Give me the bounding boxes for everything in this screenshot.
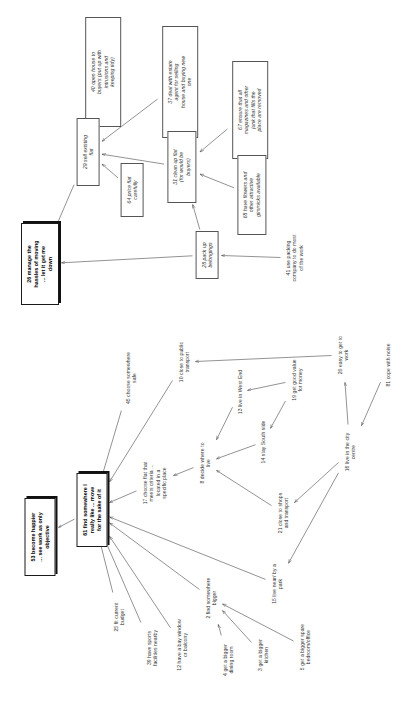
node-n19[interactable]: 19 get good value for money	[271, 374, 323, 387]
node-n17[interactable]: 17 choose flat that meets criteria ... l…	[126, 470, 184, 496]
node-label: 5 get a bigger spare bedroom/office	[299, 618, 312, 676]
node-n26[interactable]: 26 manage the hassles of moving ... let …	[0, 245, 81, 283]
node-n28[interactable]: 28 pack up belongings	[183, 244, 231, 267]
node-label: 40 open house to buyers (put up with int…	[90, 23, 116, 121]
node-n5[interactable]: 5 get a bigger spare bedroom/office	[276, 641, 334, 654]
node-label: 61 find somewhere I really like ... move…	[82, 479, 103, 541]
node-label: 21 close to shops and transport	[277, 487, 290, 539]
edge-n2-to-n61	[110, 523, 200, 590]
node-label: 13 live in West End	[237, 363, 243, 421]
node-n12[interactable]: 12 have a bay window or balcony	[153, 639, 211, 652]
node-label: 28 pack up belongings	[201, 237, 214, 273]
node-rotation-wrapper: 4 get a bigger dining room	[222, 637, 235, 683]
edge-n67-to-n31	[200, 129, 228, 152]
node-rotation-wrapper: 16 live in the city centre	[344, 426, 357, 478]
node-label: 19 get good value for money	[291, 354, 304, 406]
node-n29[interactable]: 29 sell existing flat	[54, 141, 122, 164]
node-n25[interactable]: 25 fit current budget	[96, 611, 142, 624]
node-rotation-wrapper: 14 stay South side	[260, 415, 266, 469]
node-rotation-wrapper: 10 close to public transport	[178, 334, 191, 390]
node-rotation-wrapper: 12 have a bay window or balcony	[176, 616, 189, 674]
node-rotation-wrapper: 5 get a bigger spare bedroom/office	[299, 618, 312, 676]
node-rotation-wrapper: 26 manage the hassles of moving ... let …	[21, 223, 59, 305]
node-n8[interactable]: 8 decide where to live	[179, 457, 231, 470]
node-rotation-wrapper: 19 get good value for money	[291, 354, 304, 406]
edge-n25-to-n61	[100, 543, 113, 593]
node-label: 8 decide where to live	[199, 437, 212, 489]
node-label: 16 live in the city centre	[344, 426, 357, 478]
edge-n16-to-n20	[345, 383, 348, 425]
node-label: 10 close to public transport	[178, 334, 191, 390]
node-rotation-wrapper: 3 get a bigger kitchen	[257, 632, 270, 678]
node-label: 41 use packing company to do most of the…	[285, 231, 304, 285]
edge-n13-to-n8	[217, 407, 233, 440]
node-n41[interactable]: 41 use packing company to do most of the…	[268, 248, 322, 267]
node-label: 4 get a bigger dining room	[222, 637, 235, 683]
node-rotation-wrapper: 13 live in West End	[237, 363, 243, 421]
edge-n4-to-n2	[218, 625, 221, 636]
edge-n16-to-n21	[295, 463, 339, 503]
edge-n20-to-n10	[196, 356, 332, 362]
edge-n19-to-n14	[271, 401, 286, 428]
edge-n28-to-n26	[62, 256, 193, 263]
node-label: 12 have a bay window or balcony	[176, 616, 189, 674]
node-label: 53 become happier ... see work as only o…	[30, 504, 51, 570]
edge-n64-to-n29	[102, 164, 118, 178]
node-n16[interactable]: 16 live in the city centre	[324, 446, 376, 459]
node-n67[interactable]: 67 ensure that all magazines and other j…	[201, 92, 299, 128]
node-rotation-wrapper: 37 deal with estate agent for selling ho…	[162, 26, 198, 138]
node-rotation-wrapper: 28 pack up belongings	[196, 231, 219, 279]
node-label: 14 stay South side	[260, 415, 266, 469]
node-rotation-wrapper: 17 choose flat that meets criteria ... l…	[142, 454, 168, 512]
node-rotation-wrapper: 25 fit current budget	[113, 594, 126, 640]
node-rotation-wrapper: 68 have flowers and other attractive gim…	[237, 155, 266, 235]
node-n53[interactable]: 53 become happier ... see work as only o…	[1, 522, 79, 553]
node-rotation-wrapper: 8 decide where to live	[199, 437, 212, 489]
node-label: 45 choose somewhere safe	[125, 347, 138, 409]
node-label: 64 price flat carefully	[126, 169, 139, 211]
node-n20[interactable]: 20 easy to get to work	[317, 349, 369, 362]
node-label: 37 deal with estate agent for selling ho…	[167, 32, 193, 132]
node-rotation-wrapper: 2 find somewhere bigger	[205, 573, 218, 623]
edge-n28-to-n31	[193, 205, 200, 230]
node-n13[interactable]: 13 live in West End	[211, 389, 269, 395]
node-n21[interactable]: 21 close to shops and transport	[257, 507, 309, 520]
node-rotation-wrapper: 29 sell existing flat	[77, 118, 100, 186]
diagram-canvas: 40 open house to buyers (put up with int…	[0, 0, 406, 722]
node-label: 81 cope with noise	[385, 337, 391, 393]
node-label: 67 ensure that all magazines and other j…	[237, 67, 263, 153]
node-n45[interactable]: 45 choose somewhere safe	[100, 372, 162, 385]
node-n68[interactable]: 68 have flowers and other attractive gim…	[212, 180, 292, 209]
node-label: 3 get a bigger kitchen	[257, 632, 270, 678]
node-rotation-wrapper: 41 use packing company to do most of the…	[285, 231, 304, 285]
edge-n29-to-n26	[56, 185, 74, 228]
node-rotation-wrapper: 45 choose somewhere safe	[125, 347, 138, 409]
node-rotation-wrapper: 81 cope with noise	[385, 337, 391, 393]
node-label: 17 choose flat that meets criteria ... l…	[142, 454, 168, 512]
node-rotation-wrapper: 31 clean up flat (for would be buyers)	[167, 131, 196, 203]
node-n14[interactable]: 14 stay South side	[236, 439, 290, 445]
edge-n45-to-n61	[102, 411, 122, 478]
node-label: 26 manage the hassles of moving ... let …	[26, 229, 54, 299]
node-n2[interactable]: 2 find somewhere bigger	[186, 592, 236, 605]
node-rotation-wrapper: 64 price flat carefully	[121, 163, 144, 217]
node-label: 20 easy to get to work	[337, 329, 350, 381]
node-n64[interactable]: 64 price flat carefully	[105, 179, 159, 202]
node-rotation-wrapper: 40 open house to buyers (put up with int…	[85, 17, 121, 127]
node-rotation-wrapper: 15 live near/ by a park	[271, 558, 284, 610]
node-rotation-wrapper: 21 close to shops and transport	[277, 487, 290, 539]
node-label: 15 live near/ by a park	[271, 558, 284, 610]
node-rotation-wrapper: 53 become happier ... see work as only o…	[25, 498, 56, 576]
node-label: 29 sell existing flat	[82, 124, 95, 180]
edge-n15-to-n61	[110, 517, 266, 579]
node-n10[interactable]: 10 close to public transport	[156, 356, 212, 369]
node-rotation-wrapper: 61 find somewhere I really like ... move…	[77, 473, 108, 547]
edge-n81-to-n16	[362, 382, 381, 426]
node-n15[interactable]: 15 live near/ by a park	[251, 578, 303, 591]
node-label: 68 have flowers and other attractive gim…	[242, 161, 261, 229]
node-n31[interactable]: 31 clean up flat (for would be buyers)	[146, 152, 218, 181]
node-n81[interactable]: 81 cope with noise	[360, 362, 406, 368]
edge-n21-to-n8	[217, 470, 272, 505]
node-rotation-wrapper: 20 easy to get to work	[337, 329, 350, 381]
node-label: 31 clean up flat (for would be buyers)	[172, 137, 191, 197]
